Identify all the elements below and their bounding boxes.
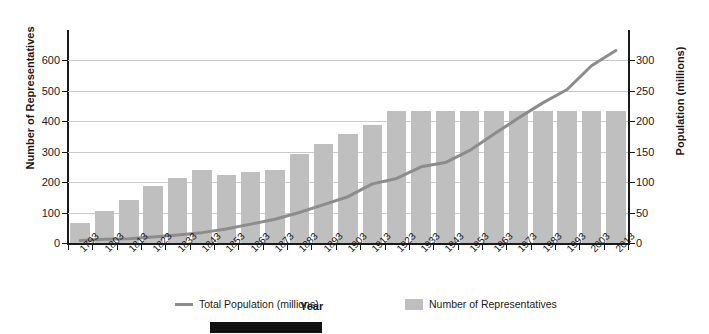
legend-swatch-marker (405, 299, 423, 310)
x-axis-tickmark (190, 245, 191, 250)
x-axis-tickmark (92, 245, 93, 250)
y-axis-right-tick-label: 300 (636, 55, 670, 66)
y-axis-right-tickmark (630, 213, 635, 214)
legend-item: Number of Representatives (405, 298, 557, 310)
line-series-total-population (68, 45, 628, 243)
x-axis-tickmark (311, 245, 312, 250)
y-axis-left-tick-label: 400 (26, 116, 60, 127)
chart-legend: Total Population (millions)Number of Rep… (175, 298, 595, 314)
x-axis-tickmark (336, 245, 337, 250)
x-axis-tickmark (238, 245, 239, 250)
x-axis-tickmark (555, 245, 556, 250)
y-axis-right-tick-label: 150 (636, 147, 670, 158)
x-axis-tickmark (531, 245, 532, 250)
x-axis-tickmark (117, 245, 118, 250)
y-axis-right-tick-label: 0 (636, 238, 670, 249)
x-axis-tickmark (263, 245, 264, 250)
plot-area (68, 45, 628, 243)
x-axis-tickmark (482, 245, 483, 250)
x-axis-tickmark (458, 245, 459, 250)
y-axis-right-tick-label: 100 (636, 177, 670, 188)
y-axis-right-tick-label: 50 (636, 208, 670, 219)
x-axis-tickmark (165, 245, 166, 250)
y-axis-left-tick-label: 100 (26, 208, 60, 219)
x-axis-tickmark (214, 245, 215, 250)
x-axis-tickmark (385, 245, 386, 250)
x-axis-tickmark (604, 245, 605, 250)
y-axis-left-title: Number of Representatives (24, 0, 36, 198)
x-axis-tickmark (506, 245, 507, 250)
y-axis-right-tickmark (630, 182, 635, 183)
y-axis-left-tick-label: 300 (26, 147, 60, 158)
black-bar-artifact (210, 322, 322, 333)
x-axis-tickmark (433, 245, 434, 250)
y-axis-left-tick-label: 500 (26, 86, 60, 97)
legend-label: Number of Representatives (429, 298, 557, 310)
y-axis-right-tickmark (630, 152, 635, 153)
y-axis-right-tickmark (630, 60, 635, 61)
x-axis-tickmark (141, 245, 142, 250)
y-axis-left-tick-label: 0 (26, 238, 60, 249)
population-line (80, 50, 616, 240)
x-axis-tickmark (287, 245, 288, 250)
y-axis-left-tick-label: 600 (26, 55, 60, 66)
y-axis-right-tick-label: 200 (636, 116, 670, 127)
x-axis-tickmark (409, 245, 410, 250)
x-axis-tickmark (579, 245, 580, 250)
x-axis-tickmark (628, 245, 629, 250)
chart-figure: Number of Representatives Population (mi… (0, 0, 709, 334)
legend-line-marker (175, 303, 193, 306)
x-axis-tick-labels: 1793180318131823183318431853186318731883… (68, 247, 628, 297)
y-axis-right-tickmark (630, 121, 635, 122)
y-axis-right-tick-label: 250 (636, 86, 670, 97)
x-axis-tickmark (360, 245, 361, 250)
legend-label: Total Population (millions) (199, 298, 319, 310)
y-axis-left-tick-label: 200 (26, 177, 60, 188)
legend-item: Total Population (millions) (175, 298, 319, 310)
y-axis-right-tickmark (630, 91, 635, 92)
x-axis-tickmark (68, 245, 69, 250)
y-axis-right-line (628, 30, 630, 244)
y-axis-right-title: Population (millions) (674, 1, 686, 201)
